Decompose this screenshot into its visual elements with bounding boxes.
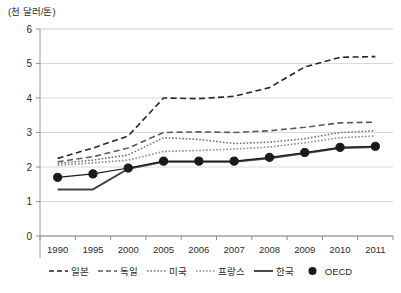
legend-item-프랑스[interactable]: 프랑스 xyxy=(196,264,245,278)
legend-swatch-icon xyxy=(196,266,215,276)
y-tick-label: 6 xyxy=(26,24,32,35)
y-tick-label: 4 xyxy=(26,93,32,104)
series-marker-OECD xyxy=(336,143,344,151)
x-tick-label: 2011 xyxy=(365,244,385,255)
legend-label: 프랑스 xyxy=(218,264,245,278)
legend-swatch-icon xyxy=(98,266,117,276)
series-marker-OECD xyxy=(124,164,132,172)
y-tick-label: 3 xyxy=(26,127,32,138)
x-tick-label: 2000 xyxy=(118,244,139,255)
x-tick-label: 2005 xyxy=(153,244,174,255)
y-axis xyxy=(36,29,40,258)
legend-swatch-icon xyxy=(147,266,166,276)
legend-label: 일본 xyxy=(71,264,89,278)
legend-item-OECD[interactable]: OECD xyxy=(303,266,352,277)
series-marker-OECD xyxy=(301,148,309,156)
y-tick-label: 1 xyxy=(26,196,32,207)
y-tick-label: 0 xyxy=(26,231,32,242)
legend-item-한국[interactable]: 한국 xyxy=(254,264,294,278)
chart-container: (천 달러/톤) 0123456 19901995200020052006200… xyxy=(0,0,401,293)
legend-item-미국[interactable]: 미국 xyxy=(147,264,187,278)
series-marker-OECD xyxy=(371,142,379,150)
x-tick-label: 2006 xyxy=(188,244,209,255)
series-line-미국 xyxy=(58,131,376,164)
x-tick-labels: 1990199520002005200620072008200920102011 xyxy=(47,244,385,255)
legend-item-독일[interactable]: 독일 xyxy=(98,264,138,278)
legend-label: 독일 xyxy=(120,264,138,278)
series-marker-OECD xyxy=(89,170,97,178)
chart-legend: 일본독일미국프랑스한국OECD xyxy=(0,264,401,278)
legend-label: 한국 xyxy=(276,264,294,278)
legend-marker-circle-icon xyxy=(308,267,316,275)
legend-label: 미국 xyxy=(169,264,187,278)
y-tick-labels: 0123456 xyxy=(26,24,32,242)
line-chart-plot: 0123456 19901995200020052006200720082009… xyxy=(0,0,401,262)
series-marker-OECD xyxy=(230,157,238,165)
legend-item-일본[interactable]: 일본 xyxy=(49,264,89,278)
x-tick-label: 2007 xyxy=(224,244,245,255)
series-marker-OECD xyxy=(265,153,273,161)
legend-swatch-icon xyxy=(254,266,273,276)
x-tick-label: 2009 xyxy=(294,244,315,255)
y-tick-label: 5 xyxy=(26,58,32,69)
x-tick-label: 1990 xyxy=(47,244,68,255)
series-marker-OECD xyxy=(159,157,167,165)
series-marker-OECD xyxy=(54,173,62,181)
legend-swatch-icon xyxy=(49,266,68,276)
series-marker-OECD xyxy=(195,157,203,165)
x-tick-label: 2010 xyxy=(329,244,350,255)
series-line-일본 xyxy=(58,57,376,159)
legend-label: OECD xyxy=(325,266,352,277)
x-tick-label: 2008 xyxy=(259,244,280,255)
x-axis xyxy=(40,236,393,240)
legend-swatch-icon xyxy=(303,266,322,276)
x-tick-label: 1995 xyxy=(82,244,103,255)
data-series-group xyxy=(54,57,380,190)
y-tick-label: 2 xyxy=(26,162,32,173)
